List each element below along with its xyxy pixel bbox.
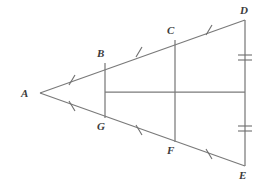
vertex-label-D: D xyxy=(240,5,248,16)
vertex-label-A: A xyxy=(21,88,28,99)
vertex-label-E: E xyxy=(239,170,246,181)
tick-AB-icon xyxy=(69,75,75,85)
vertex-label-C: C xyxy=(167,25,174,36)
tick-GF-icon xyxy=(136,125,142,135)
tick-CD-icon xyxy=(206,25,212,35)
geometry-diagram-svg xyxy=(0,0,264,185)
geometry-figure-canvas: A B C D E F G xyxy=(0,0,264,185)
vertex-label-B: B xyxy=(97,48,104,59)
tick-AG-icon xyxy=(69,101,75,111)
tick-BC-icon xyxy=(136,47,142,57)
vertex-label-G: G xyxy=(97,121,105,132)
vertex-label-F: F xyxy=(167,145,174,156)
